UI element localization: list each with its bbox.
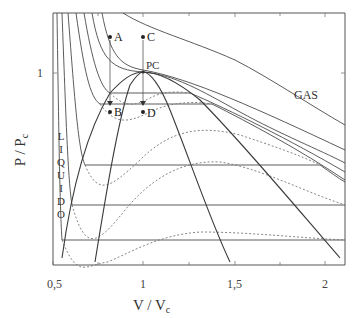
x-tick-2: 2	[322, 277, 328, 291]
spinodal-curve	[95, 72, 230, 262]
x-axis-ticks	[53, 13, 345, 265]
arrow-down-icon	[140, 101, 146, 106]
isotherm-6	[62, 13, 345, 205]
x-tick-1-5: 1,5	[227, 277, 242, 291]
svg-text:D: D	[57, 195, 65, 207]
point-c-dot	[141, 35, 145, 39]
point-c-label: C	[147, 30, 155, 44]
svg-text:I: I	[59, 143, 63, 155]
svg-text:I: I	[59, 182, 63, 194]
point-d-label: D	[147, 106, 156, 120]
isotherm-2	[102, 13, 345, 150]
arrow-down-icon	[107, 101, 113, 106]
svg-text:Q: Q	[57, 156, 65, 168]
x-axis-label: V / Vc	[133, 297, 171, 315]
x-tick-1: 1	[140, 277, 146, 291]
vdw-loop-7	[62, 232, 345, 267]
point-b-label: B	[114, 105, 122, 119]
svg-text:L: L	[58, 130, 65, 142]
y-tick-1: 1	[37, 66, 43, 80]
gas-region-label: GAS	[294, 88, 318, 102]
vdw-loop-3	[110, 92, 190, 104]
point-a-label: A	[114, 30, 123, 44]
point-b-dot	[108, 110, 112, 114]
svg-text:U: U	[57, 169, 65, 181]
critical-point-label: PC	[146, 59, 159, 71]
point-d-dot	[141, 110, 145, 114]
vdw-loop-6	[72, 162, 345, 239]
point-a-dot	[108, 35, 112, 39]
pv-diagram: A C B D PC GAS L I Q U I D O 0,5 1 1,5 2…	[0, 0, 355, 318]
x-tick-0-5: 0,5	[47, 277, 62, 291]
svg-text:O: O	[57, 208, 65, 220]
y-axis-label: P / Pc	[12, 133, 30, 166]
liquid-region-label: L I Q U I D O	[57, 130, 65, 220]
plot-frame	[53, 13, 345, 265]
isotherm-7	[57, 13, 345, 240]
critical-point-dot	[141, 70, 144, 73]
